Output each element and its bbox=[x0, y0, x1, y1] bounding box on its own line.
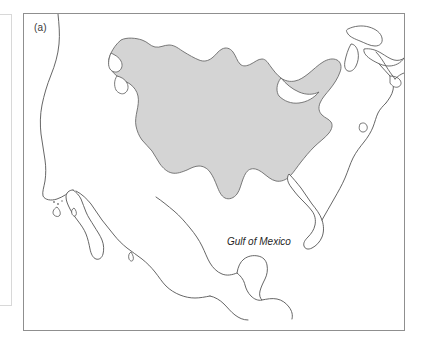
lake-michigan bbox=[345, 44, 359, 71]
north-america-map bbox=[24, 14, 404, 330]
gulf-of-mexico-label: Gulf of Mexico bbox=[227, 236, 291, 247]
lake-superior bbox=[347, 26, 383, 46]
baja-california bbox=[66, 190, 104, 259]
chesapeake-bay bbox=[359, 123, 367, 132]
yucatan-east-coast bbox=[262, 299, 292, 319]
cape-cod bbox=[390, 76, 401, 87]
coastal-inlet bbox=[53, 207, 60, 217]
map-panel: (a) Gulf of Mexico bbox=[23, 13, 405, 331]
florida-peninsula bbox=[288, 174, 324, 249]
pacific-bay-notch bbox=[129, 252, 134, 261]
panel-label: (a) bbox=[34, 22, 47, 33]
adjacent-box-fragment bbox=[0, 14, 12, 306]
us-west-coast bbox=[40, 14, 73, 200]
central-america-coast bbox=[210, 296, 248, 320]
mississippi-basin-shape bbox=[109, 38, 341, 199]
mexico-east-coast bbox=[156, 197, 237, 275]
us-east-coast bbox=[322, 103, 386, 220]
yucatan-peninsula bbox=[237, 256, 267, 301]
figure-root: (a) Gulf of Mexico bbox=[0, 0, 424, 347]
nova-scotia-coast bbox=[395, 73, 404, 79]
